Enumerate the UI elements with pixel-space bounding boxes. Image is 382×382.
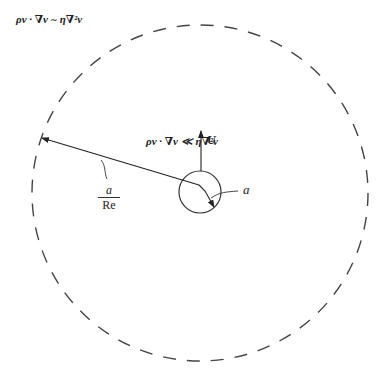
velocity-label: U xyxy=(207,133,216,148)
fraction-denominator: Re xyxy=(98,199,120,212)
outer-boundary-circle xyxy=(32,25,368,361)
outer-radius-fraction: a Re xyxy=(98,184,120,212)
outer-radius-leader xyxy=(101,160,107,179)
sphere-radius-label: a xyxy=(243,182,250,198)
outer-region-equation: ρv · ∇v ~ η∇²v xyxy=(16,13,82,26)
fraction-numerator: a xyxy=(98,184,120,196)
sphere-radius-leader xyxy=(211,191,238,198)
sphere-radius-arrow xyxy=(199,185,214,207)
sphere-circle xyxy=(179,171,221,213)
diagram-canvas xyxy=(0,0,382,382)
